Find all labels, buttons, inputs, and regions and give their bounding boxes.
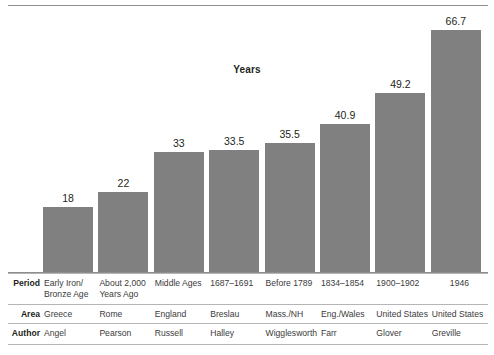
table-cell: Middle Ages xyxy=(155,273,210,303)
bar xyxy=(154,152,204,272)
table-cell: 1687–1691 xyxy=(210,273,265,303)
table-cell: United States xyxy=(432,304,487,320)
table-cell: Wigglesworth xyxy=(266,323,321,339)
table-cell: Mass./NH xyxy=(266,304,321,320)
table-cell: Pearson xyxy=(99,323,154,339)
bar xyxy=(375,93,425,272)
table-cell: Glover xyxy=(376,323,431,339)
bar-group: 33.5 xyxy=(209,0,259,272)
row-header-period: Period xyxy=(0,273,40,289)
bar-group: 33 xyxy=(154,0,204,272)
table-cell: About 2,000 Years Ago xyxy=(99,273,154,303)
bar-group: 22 xyxy=(98,0,148,272)
table-cell: Russell xyxy=(155,323,210,339)
bar-chart-plot-area: 18223333.535.540.949.266.7 xyxy=(0,0,494,272)
bar-group: 66.7 xyxy=(431,0,481,272)
bar xyxy=(265,143,315,272)
bar xyxy=(320,124,370,272)
table-cell: 1834–1854 xyxy=(321,273,376,303)
bar-group: 40.9 xyxy=(320,0,370,272)
bar xyxy=(98,192,148,272)
data-table: PeriodEarly Iron/ Bronze AgeAbout 2,000 … xyxy=(0,273,494,345)
table-cell: Breslau xyxy=(210,304,265,320)
table-cell: Before 1789 xyxy=(266,273,321,303)
bar-value-label: 22 xyxy=(98,177,148,189)
table-cell: Farr xyxy=(321,323,376,339)
row-cells: GreeceRomeEnglandBreslauMass./NHEng./Wal… xyxy=(40,304,494,320)
bar-value-label: 18 xyxy=(43,192,93,204)
row-cells: AngelPearsonRussellHalleyWigglesworthFar… xyxy=(40,323,494,339)
table-cell: Halley xyxy=(210,323,265,339)
bar xyxy=(431,30,481,272)
row-divider xyxy=(8,323,488,324)
bar-group: 49.2 xyxy=(375,0,425,272)
bar-group: 35.5 xyxy=(265,0,315,272)
bar-value-label: 33.5 xyxy=(209,135,259,147)
bar xyxy=(43,207,93,272)
bar-value-label: 40.9 xyxy=(320,109,370,121)
chart-page: Years 18223333.535.540.949.266.7 PeriodE… xyxy=(0,0,494,355)
table-cell: Greece xyxy=(44,304,99,320)
table-cell: 1946 xyxy=(432,273,487,303)
table-cell: Angel xyxy=(44,323,99,339)
table-row: AuthorAngelPearsonRussellHalleyWiggleswo… xyxy=(0,323,494,344)
row-header-area: Area xyxy=(0,304,40,320)
table-cell: Greville xyxy=(432,323,487,339)
row-cells: Early Iron/ Bronze AgeAbout 2,000 Years … xyxy=(40,273,494,303)
table-row: AreaGreeceRomeEnglandBreslauMass./NHEng.… xyxy=(0,304,494,323)
table-cell: Eng./Wales xyxy=(321,304,376,320)
table-bottom-divider xyxy=(8,344,488,345)
bar-group: 18 xyxy=(43,0,93,272)
table-cell: England xyxy=(155,304,210,320)
bar-value-label: 49.2 xyxy=(375,78,425,90)
row-divider xyxy=(8,273,488,274)
row-header-author: Author xyxy=(0,323,40,339)
table-bottom-divider-row xyxy=(0,344,494,345)
bar-value-label: 35.5 xyxy=(265,128,315,140)
row-divider xyxy=(8,304,488,305)
table-row: PeriodEarly Iron/ Bronze AgeAbout 2,000 … xyxy=(0,273,494,304)
table-cell: Rome xyxy=(99,304,154,320)
bar xyxy=(209,150,259,272)
bar-value-label: 66.7 xyxy=(431,15,481,27)
table-cell: Early Iron/ Bronze Age xyxy=(44,273,99,303)
table-cell: United States xyxy=(376,304,431,320)
bar-value-label: 33 xyxy=(154,137,204,149)
table-cell: 1900–1902 xyxy=(376,273,431,303)
